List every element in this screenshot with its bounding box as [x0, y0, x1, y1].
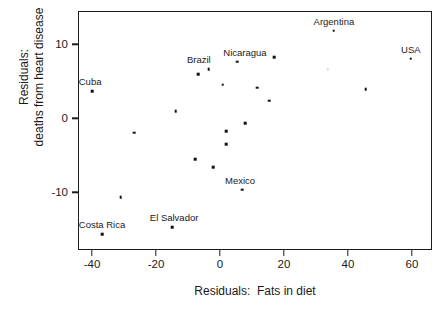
data-point	[194, 158, 197, 161]
x-axis-tick-mark	[347, 250, 348, 256]
y-axis-title-line-1: Residuals:	[17, 0, 32, 177]
data-point	[333, 29, 336, 32]
x-axis-tick-mark	[219, 250, 220, 256]
data-point	[91, 90, 94, 93]
scatter-plot-figure: Residuals: deaths from heart disease 100…	[0, 0, 445, 311]
data-point	[212, 166, 215, 169]
data-point	[208, 68, 211, 71]
x-axis-tick-label: 40	[341, 258, 354, 271]
data-point	[244, 122, 247, 125]
y-axis-title: Residuals: deaths from heart disease	[17, 0, 47, 177]
x-axis-tick-mark	[155, 250, 156, 256]
data-point	[327, 68, 330, 71]
y-axis-tick-label: 10	[55, 38, 68, 51]
x-axis-tick-mark	[91, 250, 92, 256]
data-point-label: Nicaragua	[223, 48, 266, 58]
data-point-label: Mexico	[225, 176, 255, 186]
data-point	[225, 143, 228, 146]
x-axis-tick-label: 0	[217, 258, 223, 271]
data-point	[120, 196, 123, 199]
data-point-label: Cuba	[79, 77, 102, 87]
y-axis-tick-label: -10	[51, 186, 68, 199]
x-axis-tick-mark	[283, 250, 284, 256]
y-axis-title-line-2: deaths from heart disease	[32, 0, 47, 177]
x-axis-tick-label: 60	[405, 258, 418, 271]
data-point	[241, 188, 244, 191]
plot-frame: CubaCosta RicaEl SalvadorBrazilNicaragua…	[78, 11, 432, 250]
data-point	[101, 233, 104, 236]
data-point	[197, 73, 200, 76]
data-point	[225, 130, 228, 133]
x-axis-tick-label: 20	[277, 258, 290, 271]
data-point	[273, 56, 276, 59]
x-axis-tick-mark	[411, 250, 412, 256]
data-point-label: USA	[401, 45, 421, 55]
data-point-label: Costa Rica	[79, 220, 125, 230]
x-axis-title: Residuals: Fats in diet	[78, 284, 432, 298]
data-point	[171, 226, 174, 229]
data-point-label: El Salvador	[150, 213, 199, 223]
data-point-label: Brazil	[187, 55, 211, 65]
data-point	[236, 60, 239, 63]
data-point	[256, 86, 259, 89]
data-point-label: Argentina	[314, 17, 355, 27]
x-axis-tick-label: -40	[84, 258, 101, 271]
x-axis-tick-label: -20	[148, 258, 165, 271]
y-axis-tick-label: 0	[62, 112, 68, 125]
data-point	[268, 100, 271, 103]
plot-area: CubaCosta RicaEl SalvadorBrazilNicaragua…	[79, 12, 431, 249]
data-point	[175, 110, 178, 113]
data-point	[410, 57, 413, 60]
data-point	[222, 83, 225, 86]
data-point	[133, 131, 136, 134]
data-point	[365, 88, 368, 91]
